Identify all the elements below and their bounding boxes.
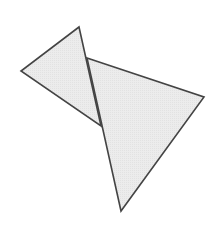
left-triangle (21, 27, 101, 126)
right-triangle (87, 58, 204, 211)
triangles-diagram (0, 0, 222, 225)
